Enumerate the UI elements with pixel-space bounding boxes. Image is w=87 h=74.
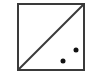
dot: [61, 59, 66, 64]
split-square-dots-icon: [0, 0, 87, 74]
dot: [74, 48, 79, 53]
icon-canvas: [0, 0, 87, 74]
